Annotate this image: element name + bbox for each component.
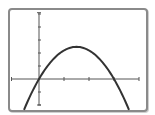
parabola-curve <box>24 47 129 110</box>
chart-plot <box>0 0 155 115</box>
